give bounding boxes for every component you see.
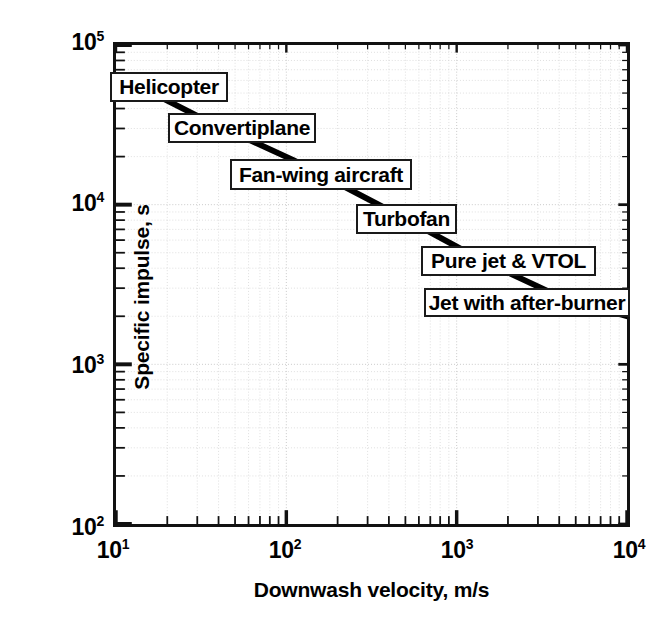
annotation-label: Convertiplane [174, 116, 310, 140]
annotation-label: Helicopter [119, 75, 219, 99]
ytick-label-3: 102 [48, 514, 104, 541]
annotation-label: Jet with after-burner [429, 291, 626, 315]
annotation-pure-jet-and-vtol: Pure jet & VTOL [421, 246, 596, 276]
annotation-label: Turbofan [363, 207, 450, 231]
annotation-helicopter: Helicopter [110, 72, 228, 102]
xtick-label-1: 102 [269, 537, 301, 564]
annotation-label: Pure jet & VTOL [431, 249, 586, 273]
xtick-label-0: 101 [97, 537, 129, 564]
xtick-label-2: 103 [441, 537, 473, 564]
annotation-fan-wing-aircraft: Fan-wing aircraft [230, 159, 412, 190]
y-axis-title: Specific impulse, s [130, 147, 154, 447]
annotation-label: Fan-wing aircraft [239, 163, 403, 187]
xtick-label-3: 104 [613, 537, 645, 564]
annotation-convertiplane: Convertiplane [168, 113, 316, 143]
ytick-label-1: 104 [48, 190, 104, 217]
ytick-label-0: 105 [48, 29, 104, 56]
annotation-turbofan: Turbofan [356, 204, 457, 234]
x-axis-title: Downwash velocity, m/s [113, 578, 630, 602]
ytick-label-2: 103 [48, 352, 104, 379]
chart-figure: 105 104 103 102 101 102 103 104 Specific… [0, 0, 670, 630]
annotation-jet-with-after-burner: Jet with after-burner [424, 288, 630, 317]
